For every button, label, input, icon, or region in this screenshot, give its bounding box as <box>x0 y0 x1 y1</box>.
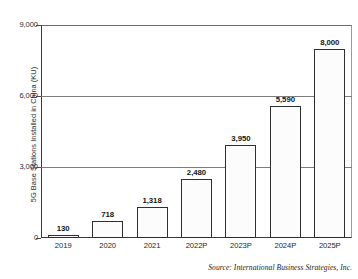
x-tick-label: 2022P <box>172 241 222 250</box>
x-tick-label: 2023P <box>216 241 266 250</box>
y-tick-label: 0 <box>2 233 38 242</box>
bar <box>314 49 345 238</box>
bar-value-label: 2,480 <box>172 168 222 177</box>
bar <box>181 179 212 238</box>
x-tick-label: 2021 <box>127 241 177 250</box>
bar-value-label: 1,318 <box>127 196 177 205</box>
bar <box>225 145 256 238</box>
bar-value-label: 130 <box>38 224 88 233</box>
y-tick-mark <box>36 238 41 239</box>
bar-chart: 5G Base Stations Installed in China (KU)… <box>0 0 358 279</box>
bar-value-label: 3,950 <box>216 134 266 143</box>
source-note: Source: International Business Strategie… <box>0 263 352 272</box>
y-axis-ticks: 03,0006,0009,000 <box>0 0 38 279</box>
x-tick-label: 2020 <box>83 241 133 250</box>
bar <box>48 235 79 239</box>
y-tick-label: 6,000 <box>2 91 38 100</box>
bar <box>92 221 123 238</box>
x-axis-ticks: 2019202020212022P2023P2024P2025P <box>41 241 352 255</box>
bar-value-label: 8,000 <box>305 38 355 47</box>
bar-value-label: 5,590 <box>260 95 310 104</box>
y-tick-label: 9,000 <box>2 20 38 29</box>
bar <box>270 106 301 238</box>
bar-value-label: 718 <box>83 210 133 219</box>
bar <box>137 207 168 238</box>
x-tick-label: 2025P <box>305 241 355 250</box>
bars-layer: 1307181,3182,4803,9505,5908,000 <box>41 25 352 238</box>
x-tick-label: 2024P <box>260 241 310 250</box>
y-tick-label: 3,000 <box>2 162 38 171</box>
x-tick-label: 2019 <box>38 241 88 250</box>
